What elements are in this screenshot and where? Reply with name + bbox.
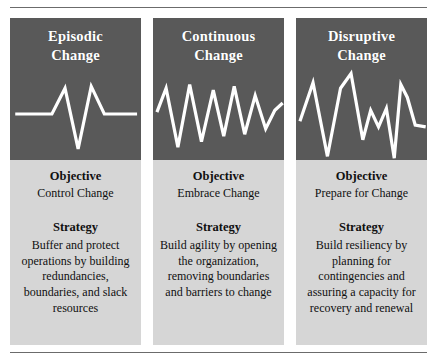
disruptive-strategy-value: Build resiliency by planning for conting…: [301, 238, 422, 317]
episodic-title-line2: Change: [10, 46, 141, 65]
disruptive-objective-value: Prepare for Change: [301, 186, 422, 202]
continuous-objective-label: Objective: [158, 169, 279, 184]
top-divider-rule: [10, 7, 427, 8]
episodic-strategy-label: Strategy: [15, 220, 136, 235]
disruptive-strategy-label: Strategy: [301, 220, 422, 235]
disruptive-waveform-path: [300, 74, 426, 159]
episodic-title: Episodic Change: [10, 27, 141, 64]
disruptive-title: Disruptive Change: [296, 27, 427, 64]
continuous-waveform: [153, 68, 284, 160]
continuous-title-line2: Change: [153, 46, 284, 65]
disruptive-title-line2: Change: [296, 46, 427, 65]
disruptive-header-panel: Disruptive Change: [296, 18, 427, 160]
continuous-header-panel: Continuous Change: [153, 18, 284, 160]
column-episodic: Episodic Change Objective Control Change…: [10, 18, 141, 345]
continuous-detail-panel: Objective Embrace Change Strategy Build …: [153, 160, 284, 345]
continuous-title: Continuous Change: [153, 27, 284, 64]
episodic-waveform: [10, 68, 141, 160]
continuous-objective-value: Embrace Change: [158, 186, 279, 202]
disruptive-detail-panel: Objective Prepare for Change Strategy Bu…: [296, 160, 427, 345]
columns-container: Episodic Change Objective Control Change…: [10, 18, 427, 345]
bottom-divider-rule: [10, 352, 427, 353]
continuous-waveform-path: [157, 85, 283, 148]
episodic-strategy-value: Buffer and protect operations by buildin…: [15, 238, 136, 317]
column-continuous: Continuous Change Objective Embrace Chan…: [153, 18, 284, 345]
episodic-objective-label: Objective: [15, 169, 136, 184]
episodic-header-panel: Episodic Change: [10, 18, 141, 160]
continuous-strategy-label: Strategy: [158, 220, 279, 235]
disruptive-title-line1: Disruptive: [296, 27, 427, 46]
column-disruptive: Disruptive Change Objective Prepare for …: [296, 18, 427, 345]
continuous-strategy-value: Build agility by opening the organizatio…: [158, 238, 279, 301]
change-types-comparison-figure: Episodic Change Objective Control Change…: [0, 0, 437, 363]
disruptive-objective-label: Objective: [301, 169, 422, 184]
continuous-title-line1: Continuous: [153, 27, 284, 46]
episodic-objective-value: Control Change: [15, 186, 136, 202]
episodic-title-line1: Episodic: [10, 27, 141, 46]
episodic-detail-panel: Objective Control Change Strategy Buffer…: [10, 160, 141, 345]
episodic-waveform-path: [15, 86, 137, 149]
disruptive-waveform: [296, 68, 427, 160]
